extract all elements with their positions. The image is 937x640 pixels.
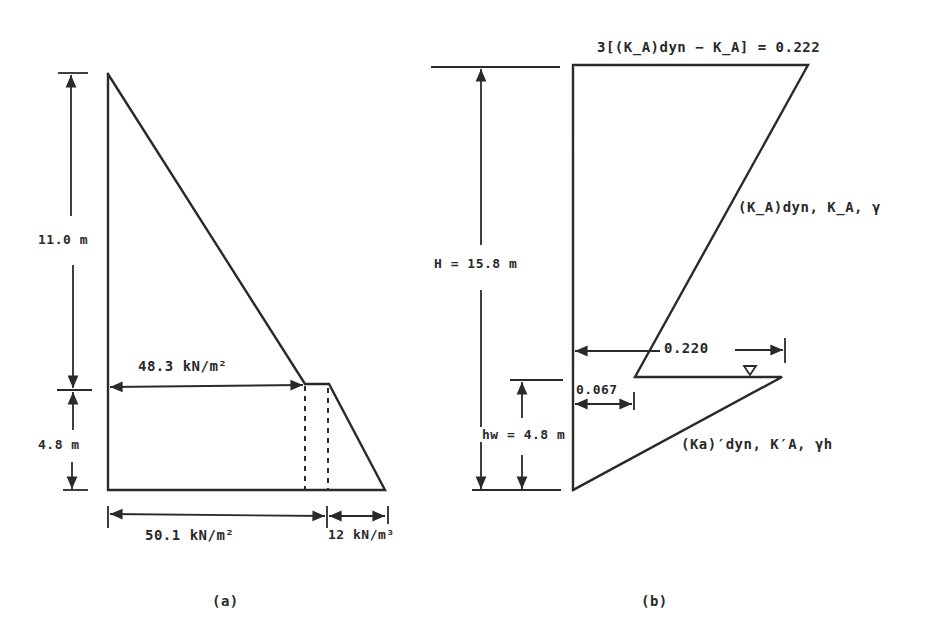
label-water-height-hw: hw = 4.8 m — [480, 427, 567, 442]
dim-line-48-3 — [110, 385, 303, 387]
caption-b: (b) — [641, 593, 668, 609]
label-top-value-0-222: 3[(K_A)dyn − K_A] = 0.222 — [597, 39, 820, 55]
label-lower-line-params: (Ka)′dyn, K′A, γh — [681, 436, 833, 452]
dim-line-50-1 — [110, 514, 325, 516]
figure-a — [57, 73, 388, 528]
label-pressure-48-3: 48.3 kN/m² — [138, 358, 227, 374]
label-width-0-220: 0.220 — [664, 340, 709, 356]
pressure-diagram-b-upper — [573, 65, 808, 490]
diagram-canvas — [0, 0, 937, 640]
label-offset-0-067: 0.067 — [576, 382, 618, 397]
caption-a: (a) — [212, 593, 239, 609]
label-height-11m: 11.0 m — [36, 232, 90, 247]
label-height-4-8m: 4.8 m — [36, 437, 82, 452]
water-level-icon — [744, 366, 756, 375]
label-unit-weight-12: 12 kN/m³ — [328, 527, 395, 542]
label-pressure-50-1: 50.1 kN/m² — [145, 527, 234, 543]
label-upper-line-params: (K_A)dyn, K_A, γ — [738, 199, 881, 215]
pressure-diagram-a-outline — [108, 74, 385, 490]
label-total-height-H: H = 15.8 m — [432, 256, 519, 271]
